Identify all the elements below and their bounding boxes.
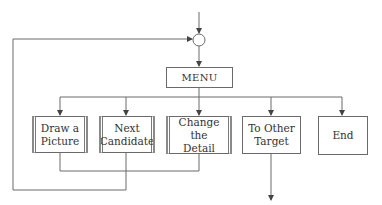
end-node: End (318, 116, 368, 155)
flowchart-diagram: MENU Draw a Picture Next Candidate Chang… (0, 0, 382, 205)
next-candidate-node: Next Candidate (100, 116, 154, 153)
draw-picture-node: Draw a Picture (33, 116, 87, 153)
change-detail-node: Change the Detail (167, 116, 231, 154)
menu-node: MENU (166, 67, 233, 88)
to-other-target-node: To Other Target (242, 116, 301, 154)
feedback-loop-line (13, 39, 192, 190)
connector-lines (0, 0, 382, 205)
return-line-draw-change (60, 152, 199, 171)
junction-circle (193, 34, 205, 46)
